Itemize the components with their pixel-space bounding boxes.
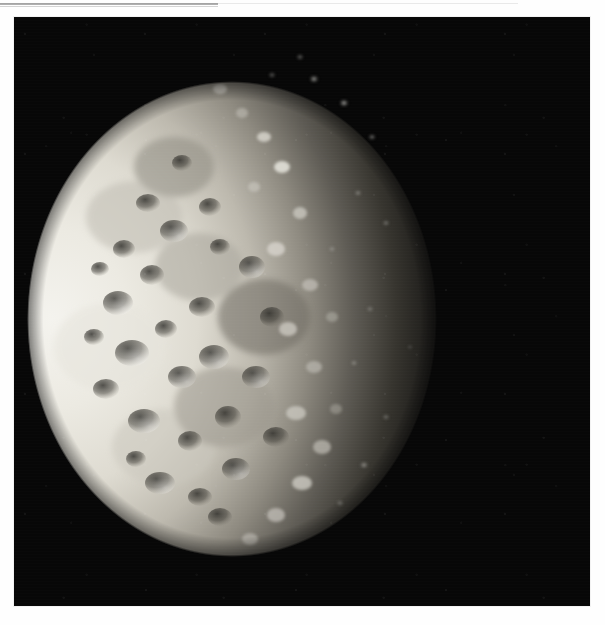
header-rule-secondary — [0, 6, 218, 7]
header-rule — [0, 3, 218, 5]
header-rule-faint-extension — [218, 3, 518, 4]
scanned-page — [0, 0, 605, 625]
space-photograph — [14, 17, 590, 606]
scan-banding-layer — [14, 17, 590, 606]
